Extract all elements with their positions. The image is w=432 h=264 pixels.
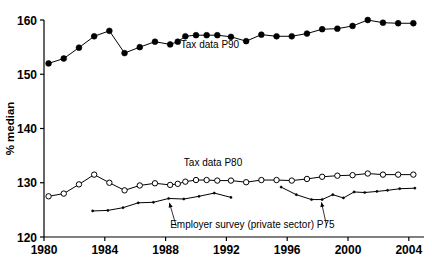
line-chart: 120130140150160 198019841988199219962000… [0,0,432,264]
series-line-employer-survey-private-sector-p75-1 [281,187,415,199]
y-tick-labels: 120130140150160 [17,14,37,245]
x-tick-labels: 1980198419881992199620002004 [31,243,423,257]
data-point [91,33,97,39]
leader-line-right-arrow-icon [320,202,324,207]
data-point [230,196,232,198]
data-point [304,31,310,37]
data-point [92,210,94,212]
data-point [380,20,386,26]
data-point [204,32,210,38]
chart-container: 120130140150160 198019841988199219962000… [0,0,432,264]
data-point [274,33,280,39]
data-point [280,186,282,188]
axis-lines [44,20,424,237]
data-point [152,181,157,186]
data-point [167,42,173,48]
data-point [395,172,400,177]
annotation-group: Tax data P90Tax data P80Employer survey … [169,39,335,231]
data-point [193,32,199,38]
data-point [304,176,309,181]
x-tick-label-1996: 1996 [274,243,301,257]
data-point [152,39,158,45]
y-tick-label-140: 140 [17,122,37,136]
annotation-label-1: Tax data P80 [184,157,243,168]
data-point [243,180,248,185]
data-point [46,194,51,199]
x-tick-label-1988: 1988 [152,243,179,257]
data-point [152,201,154,203]
data-point [364,191,366,193]
x-tick-label-1992: 1992 [213,243,240,257]
data-point [61,191,66,196]
x-tick-label-1980: 1980 [31,243,58,257]
data-point [243,38,249,44]
data-point [310,198,312,200]
data-point [350,172,355,177]
data-point [61,56,67,62]
data-point [228,178,233,183]
data-point [386,189,388,191]
data-point [214,32,220,38]
data-point [204,177,209,182]
data-point [334,26,340,32]
data-point [295,194,297,196]
data-point [365,17,371,23]
data-point [321,198,323,200]
data-point [122,50,128,56]
data-point [46,61,52,67]
data-point [350,23,356,29]
data-point [289,178,294,183]
data-point [319,26,325,32]
y-axis-title-text: % median [4,102,16,156]
data-point [380,172,385,177]
y-tick-label-130: 130 [17,176,37,190]
data-point [183,179,188,184]
data-point [335,173,340,178]
data-point [259,177,264,182]
data-point [107,180,112,185]
data-point [198,195,200,197]
data-point [106,28,112,34]
data-point [168,197,170,199]
data-point [193,177,198,182]
y-axis-title: % median [4,102,16,156]
data-point [353,191,355,193]
x-tick-label-2000: 2000 [335,243,362,257]
series-line-tax-data-p80 [49,174,414,197]
series-line-employer-survey-private-sector-p75-0 [93,193,231,211]
data-point [122,207,124,209]
x-tick-label-1984: 1984 [91,243,118,257]
data-point [183,198,185,200]
axes-group [40,20,424,241]
data-point [414,187,416,189]
data-point [319,174,324,179]
data-point [215,178,220,183]
data-point [274,177,279,182]
data-point [332,194,334,196]
x-tick-label-2004: 2004 [395,243,422,257]
data-point [122,188,127,193]
data-point [175,39,181,45]
data-point [213,192,215,194]
data-point [376,190,378,192]
data-point [289,33,295,39]
data-point [175,181,180,186]
data-point [365,171,370,176]
data-point [137,44,143,50]
data-point [395,20,401,26]
data-point [399,188,401,190]
annotation-label-2: Employer survey (private sector) P75 [170,219,335,230]
data-point [258,32,264,38]
y-tick-label-160: 160 [17,14,37,28]
data-point [107,209,109,211]
annotation-label-0: Tax data P90 [181,39,240,50]
data-point [410,20,416,26]
data-point [411,172,416,177]
data-point [91,172,96,177]
data-point [137,202,139,204]
data-point [167,182,172,187]
data-point [76,45,82,51]
data-point [76,182,81,187]
y-tick-label-150: 150 [17,68,37,82]
data-point [342,197,344,199]
